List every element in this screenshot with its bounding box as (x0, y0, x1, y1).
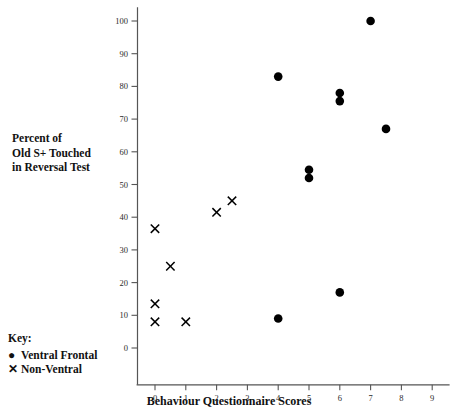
y-axis-tick-label: 0 (124, 343, 128, 353)
y-axis-tick-label: 50 (120, 180, 129, 190)
y-axis-tick-label: 30 (120, 245, 129, 255)
x-axis-tick-label: 3 (245, 393, 249, 403)
data-point-ventral-frontal (366, 17, 375, 26)
data-point-ventral-frontal (336, 89, 345, 98)
y-axis-tick-label: 70 (120, 114, 129, 124)
data-point-ventral-frontal (382, 125, 391, 134)
data-point-non-ventral (151, 300, 159, 308)
y-axis-tick-label: 20 (120, 278, 129, 288)
y-axis-tick-label: 80 (120, 81, 129, 91)
axes-layer (132, 7, 450, 390)
x-axis-tick-label: 8 (399, 393, 403, 403)
data-points-layer (151, 17, 391, 326)
scatter-plot: 01020304050607080901000123456789 (0, 0, 458, 416)
x-axis-tick-label: 2 (214, 393, 218, 403)
data-point-ventral-frontal (274, 314, 283, 323)
x-axis-tick-label: 1 (184, 393, 188, 403)
x-axis-tick-label: 4 (276, 393, 281, 403)
y-axis-tick-label: 40 (120, 212, 129, 222)
data-point-non-ventral (212, 208, 220, 216)
x-axis-tick-label: 5 (307, 393, 311, 403)
data-point-ventral-frontal (305, 165, 314, 174)
y-axis-tick-label: 100 (115, 16, 128, 26)
data-point-ventral-frontal (305, 174, 314, 183)
x-axis-tick-label: 7 (368, 393, 372, 403)
figure-canvas: Percent of Old S+ Touched in Reversal Te… (0, 0, 458, 416)
data-point-ventral-frontal (274, 72, 283, 81)
x-axis-tick-label: 9 (430, 393, 434, 403)
data-point-non-ventral (151, 318, 159, 326)
data-point-non-ventral (151, 224, 159, 232)
data-point-non-ventral (166, 262, 174, 270)
data-point-non-ventral (182, 318, 190, 326)
y-axis-tick-label: 60 (120, 147, 129, 157)
x-axis-tick-label: 6 (338, 393, 342, 403)
data-point-non-ventral (228, 197, 236, 205)
x-axis-tick-label: 0 (153, 393, 157, 403)
y-axis-tick-label: 90 (120, 49, 129, 59)
data-point-ventral-frontal (336, 97, 345, 106)
y-axis-tick-label: 10 (120, 310, 129, 320)
data-point-ventral-frontal (336, 288, 345, 297)
